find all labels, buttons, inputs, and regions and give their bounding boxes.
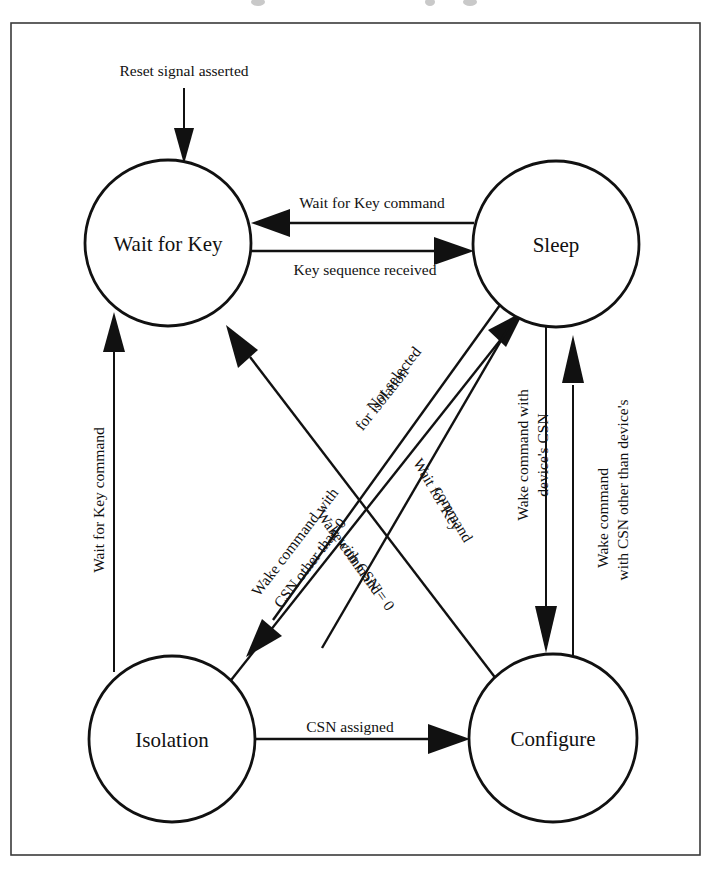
transition-sleep-to-configure-label-line2: device's CSN [534, 413, 551, 496]
transition-wait-to-sleep-label: Key sequence received [294, 261, 437, 278]
clipped-caption-smudge [251, 0, 477, 6]
state-label-isolation: Isolation [135, 728, 209, 752]
state-node-configure[interactable]: Configure [469, 654, 637, 822]
transition-sleep-to-configure-diagonal-label-line2: command [431, 484, 477, 546]
transition-configure-to-sleep-label-line1: Wake command [594, 468, 611, 568]
transition-sleep-to-configure-diagonal-line [322, 320, 513, 648]
transition-isolation-to-wait-label: Wait for Key command [90, 427, 107, 573]
transition-sleep-to-isolation-line [246, 305, 500, 657]
state-label-sleep: Sleep [533, 233, 580, 257]
transition-isolation-to-configure-label: CSN assigned [306, 718, 394, 735]
state-node-wait-for-key[interactable]: Wait for Key [85, 160, 251, 326]
transition-configure-to-sleep-line [562, 335, 584, 665]
state-label-configure: Configure [510, 727, 595, 751]
transition-configure-to-sleep-label-line2: with CSN other than device's [614, 399, 631, 580]
transition-isolation-to-sleep-label-line2: for isolation [352, 364, 412, 434]
state-node-sleep[interactable]: Sleep [473, 161, 639, 327]
transition-sleep-to-wait-line [251, 209, 474, 237]
entry-label: Reset signal asserted [119, 62, 248, 79]
state-node-isolation[interactable]: Isolation [89, 656, 255, 822]
transition-sleep-to-wait-label: Wait for Key command [299, 194, 445, 211]
transition-sleep-to-configure-label-line1: Wake command with [514, 389, 531, 521]
state-diagram: Reset signal asserted Wait for Key comma… [0, 0, 710, 878]
state-diagram-canvas: Reset signal asserted Wait for Key comma… [0, 0, 710, 878]
state-label-wait-for-key: Wait for Key [113, 232, 223, 256]
transition-reset-entry [174, 88, 194, 164]
